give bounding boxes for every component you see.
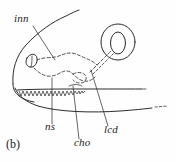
eye-outer-ring [101,24,135,60]
figure-panel-b: inn ns cho lcd (b) [0,0,176,162]
upper-jaw-margin [17,89,141,90]
label-cho: cho [74,136,91,148]
eye-pupil [111,32,126,54]
choana-rim [69,85,82,87]
label-inn: inn [14,12,29,24]
choana-outline [73,73,86,84]
nasal-sac-outline [37,53,97,65]
anatomical-line-drawing: inn ns cho lcd [0,0,176,162]
label-ns: ns [45,120,55,132]
leader-inn [33,26,55,60]
figure-caption: (b) [6,138,20,150]
body-trailing-dashes [155,106,168,107]
label-lcd: lcd [104,123,118,135]
leader-cho [73,86,79,139]
lacrimal-duct-second-wall [93,53,114,74]
leader-lcd [91,70,108,126]
nostril-inner-fold [31,56,32,67]
